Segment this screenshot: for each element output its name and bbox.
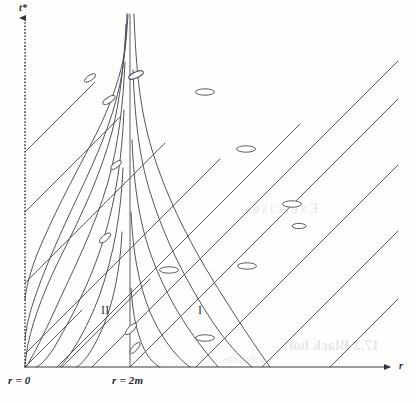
ingoing-ray [92,61,398,367]
light-cone [237,146,256,152]
diagram-canvas [0,0,416,403]
region-label-I: I [198,303,202,318]
ingoing-ray [196,165,398,367]
outgoing-null-geodesics-interior [25,14,128,367]
outgoing-ray [25,24,126,367]
time-axis-label: t* [19,2,27,13]
ingoing-ray [25,310,82,367]
ingoing-ray [130,99,398,367]
region-label-II: II [101,303,110,318]
curve-layer [25,14,398,367]
light-cone [160,267,179,273]
light-cone [292,223,306,228]
spacetime-diagram-figure: Exercises 17.2 Black hol solutions [0,0,416,403]
light-cone [196,335,215,341]
ingoing-ray [25,82,95,152]
light-cone [238,263,257,269]
ingoing-ray [57,124,300,367]
light-cone [124,322,138,337]
r-horizon-label: r = 2m [112,374,143,386]
ingoing-ray [25,159,220,354]
ingoing-ray [262,231,398,367]
ingoing-ray [330,299,398,367]
ingoing-ray [62,279,150,367]
light-cone [196,89,215,95]
outgoing-ray [25,14,127,340]
outgoing-ray [133,70,252,367]
light-cone [109,159,122,171]
light-cone [283,201,302,207]
outgoing-ray [25,14,128,300]
r-zero-label: r = 0 [8,374,31,386]
radial-axis-label: r [399,360,403,371]
ingoing-ray [25,143,165,283]
outgoing-ray [36,110,124,367]
